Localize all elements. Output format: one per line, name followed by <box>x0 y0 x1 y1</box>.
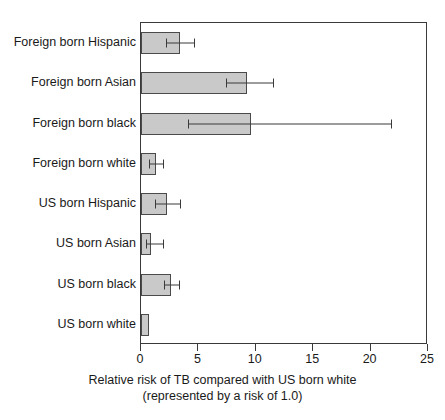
bar-group <box>141 193 426 215</box>
x-axis-tick <box>370 344 371 351</box>
bar-row <box>141 63 426 103</box>
x-axis-tick <box>197 344 198 351</box>
error-bar-cap-low <box>226 79 227 88</box>
x-axis-title-line2: (represented by a risk of 1.0) <box>0 388 445 404</box>
y-axis-tick-label: US born white <box>0 317 136 331</box>
x-axis-title-line1: Relative risk of TB compared with US bor… <box>89 373 357 387</box>
error-bar-line <box>164 284 179 285</box>
y-axis-tick-label: US born Hispanic <box>0 196 136 210</box>
y-axis-tick-label: US born black <box>0 277 136 291</box>
bar-row <box>141 224 426 264</box>
error-bar-cap-high <box>391 119 392 128</box>
x-axis-tick-label: 20 <box>363 352 377 367</box>
y-axis-tick-label: Foreign born Asian <box>0 75 136 89</box>
error-bar-cap-high <box>180 200 181 209</box>
error-bar-cap-low <box>188 119 189 128</box>
x-axis-tick <box>255 344 256 351</box>
bar-row <box>141 104 426 144</box>
x-axis-tick-labels: 0510152025 <box>140 352 427 370</box>
y-axis-tick-label: Foreign born black <box>0 116 136 130</box>
bar-row <box>141 23 426 63</box>
x-axis-tick-label: 5 <box>194 352 201 367</box>
error-bar-cap-low <box>155 200 156 209</box>
error-bar-cap-high <box>179 280 180 289</box>
bar-group <box>141 233 426 255</box>
x-axis-tick <box>312 344 313 351</box>
error-bar-cap-low <box>149 159 150 168</box>
y-axis-tick-label: Foreign born Hispanic <box>0 35 136 49</box>
error-bar-cap-high <box>194 39 195 48</box>
error-bar-line <box>155 204 180 205</box>
bar-row <box>141 305 426 345</box>
x-axis-ticks <box>140 344 427 352</box>
error-bar-line <box>166 43 194 44</box>
x-axis-tick-label: 25 <box>420 352 434 367</box>
x-axis-tick-label: 0 <box>137 352 144 367</box>
bar-group <box>141 274 426 296</box>
bar-group <box>141 32 426 54</box>
chart-figure: Foreign born Hispanic Foreign born Asian… <box>0 0 445 420</box>
error-bar-line <box>149 163 163 164</box>
bar-row <box>141 144 426 184</box>
y-axis-tick-label: Foreign born white <box>0 156 136 170</box>
x-axis-tick-label: 10 <box>248 352 262 367</box>
x-axis-tick-label: 15 <box>305 352 319 367</box>
bar-row <box>141 265 426 305</box>
error-bar-cap-high <box>273 79 274 88</box>
x-axis-title: Relative risk of TB compared with US bor… <box>0 372 445 404</box>
error-bar-cap-low <box>166 39 167 48</box>
bar <box>141 314 149 336</box>
bar-group <box>141 153 426 175</box>
y-axis-tick-label: US born Asian <box>0 236 136 250</box>
bar-group <box>141 113 426 135</box>
bar-group <box>141 72 426 94</box>
x-axis-tick <box>427 344 428 351</box>
error-bar-line <box>146 244 163 245</box>
error-bar-cap-high <box>163 159 164 168</box>
error-bar-line <box>188 123 391 124</box>
plot-area <box>140 22 427 344</box>
y-axis-labels: Foreign born Hispanic Foreign born Asian… <box>0 22 136 344</box>
error-bar-cap-low <box>146 240 147 249</box>
x-axis-tick <box>140 344 141 351</box>
bar-group <box>141 314 426 336</box>
error-bar-line <box>226 83 273 84</box>
bar-row <box>141 184 426 224</box>
error-bar-cap-high <box>163 240 164 249</box>
error-bar-cap-low <box>164 280 165 289</box>
